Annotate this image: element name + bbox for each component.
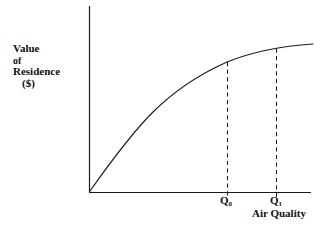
tick-label-q0-subscript: 0 [229,200,233,208]
tick-label-q1-base: Q [270,194,279,206]
y-axis-label-line-1: Value [13,43,85,55]
y-axis-label-line-4: ($) [13,78,85,90]
tick-label-q0: Q0 [220,194,232,206]
y-axis-label-line-3: Residence [13,66,85,78]
y-axis-label: Value of Residence ($) [13,43,85,89]
value-curve [90,44,313,191]
tick-label-q0-base: Q [220,194,229,206]
x-axis-label: Air Quality [252,207,306,219]
tick-label-q1: Q1 [270,194,282,206]
chart-figure: Value of Residence ($) Q0 Q1 Air Quality [0,0,328,228]
